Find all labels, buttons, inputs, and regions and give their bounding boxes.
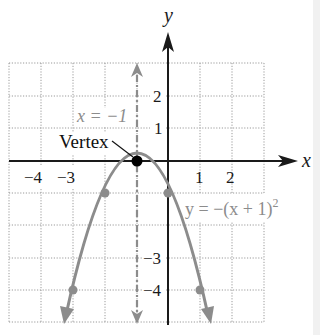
symmetry-label: x = −1	[76, 106, 127, 126]
point-neg3-neg4	[69, 286, 78, 295]
point-neg2-neg1	[101, 189, 110, 198]
y-tick-1: 1	[154, 119, 163, 138]
point-1-neg4	[196, 286, 205, 295]
x-tick-1: 1	[195, 168, 204, 187]
parabola-graph: y x −4 −3 1 2 2 1 −3 −4 x = −1 Vertex y …	[0, 0, 320, 335]
x-tick-neg4: −4	[24, 168, 43, 187]
equation-exponent: 2	[272, 196, 278, 210]
symmetry-label-text: x = −1	[76, 106, 127, 126]
curve-arrow-left-icon	[60, 306, 74, 324]
y-axis-label: y	[162, 4, 173, 27]
y-tick-neg3: −3	[143, 249, 161, 268]
point-0-neg1	[164, 189, 173, 198]
x-axis-label: x	[301, 149, 311, 171]
equation-label: y = −(x + 1)2	[185, 196, 278, 220]
x-tick-neg3: −3	[57, 168, 75, 187]
y-tick-neg4: −4	[143, 281, 162, 300]
vertex-label: Vertex	[59, 131, 109, 152]
equation-text: y = −(x + 1)	[185, 199, 272, 220]
y-tick-2: 2	[153, 87, 162, 106]
x-tick-2: 2	[226, 168, 235, 187]
curve-arrow-right-icon	[201, 306, 214, 324]
vertex-point	[132, 156, 143, 167]
